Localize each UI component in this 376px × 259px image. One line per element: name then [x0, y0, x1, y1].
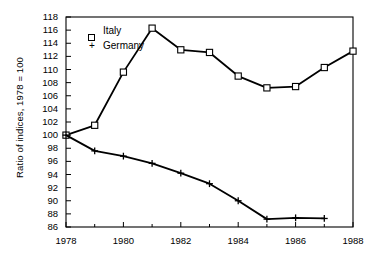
plot-area: [0, 0, 376, 259]
chart-legend: Italy + Germany: [86, 24, 144, 54]
data-point-marker-italy: [350, 48, 356, 54]
plus-marker-icon: +: [86, 40, 98, 52]
data-point-marker-italy: [264, 85, 270, 91]
legend-item-germany: + Germany: [86, 39, 144, 52]
data-point-marker-italy: [120, 69, 126, 75]
data-point-marker-italy: [206, 49, 212, 55]
data-point-marker-italy: [235, 73, 241, 79]
line-chart: Ratio of indices, 1978 = 100 86889092949…: [0, 0, 376, 259]
data-point-marker-italy: [92, 122, 98, 128]
legend-label-italy: Italy: [103, 25, 121, 37]
data-point-marker-italy: [293, 83, 299, 89]
series-line-germany: [66, 135, 324, 219]
data-point-marker-italy: [149, 25, 155, 31]
legend-item-italy: Italy: [86, 24, 144, 37]
data-point-marker-italy: [321, 64, 327, 70]
data-point-marker-italy: [178, 47, 184, 53]
legend-label-germany: Germany: [103, 40, 144, 52]
